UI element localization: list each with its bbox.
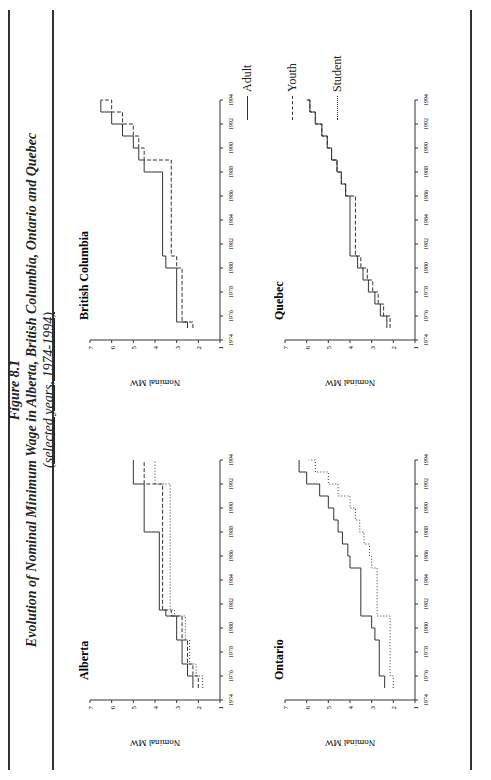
svg-text:1984: 1984 <box>423 214 429 226</box>
svg-text:7: 7 <box>87 346 95 350</box>
svg-text:1976: 1976 <box>423 310 429 322</box>
svg-text:4: 4 <box>347 346 355 350</box>
svg-text:1978: 1978 <box>228 646 234 658</box>
svg-text:1988: 1988 <box>423 166 429 178</box>
svg-text:1986: 1986 <box>228 550 234 562</box>
svg-text:2: 2 <box>195 706 203 710</box>
figure-label: Figure 8.1 <box>6 0 23 780</box>
svg-text:1990: 1990 <box>228 142 234 154</box>
svg-text:1974: 1974 <box>228 694 234 706</box>
svg-text:1980: 1980 <box>423 622 429 634</box>
dotted-line-icon <box>337 96 338 120</box>
svg-text:Nominal MW: Nominal MW <box>324 378 375 388</box>
svg-text:5: 5 <box>130 346 138 350</box>
svg-text:1980: 1980 <box>228 622 234 634</box>
svg-text:1986: 1986 <box>228 190 234 202</box>
panel-alberta: 1234567197419761978198019821984198619881… <box>70 390 230 760</box>
svg-text:1992: 1992 <box>228 478 234 490</box>
svg-text:1: 1 <box>412 346 420 350</box>
svg-text:7: 7 <box>87 706 95 710</box>
svg-text:4: 4 <box>152 346 160 350</box>
panel-british-columbia: 1234567197419761978198019821984198619881… <box>70 30 230 400</box>
svg-text:1990: 1990 <box>228 502 234 514</box>
svg-text:1986: 1986 <box>423 190 429 202</box>
panel-ontario: 1234567197419761978198019821984198619881… <box>265 390 425 760</box>
svg-text:1982: 1982 <box>423 238 429 250</box>
svg-text:3: 3 <box>174 706 182 710</box>
svg-text:1984: 1984 <box>228 214 234 226</box>
svg-text:Quebec: Quebec <box>272 281 286 320</box>
svg-text:6: 6 <box>304 706 312 710</box>
svg-text:Nominal MW: Nominal MW <box>129 378 180 388</box>
svg-text:4: 4 <box>152 706 160 710</box>
svg-text:1980: 1980 <box>228 262 234 274</box>
legend-item-youth: Youth <box>285 55 300 120</box>
svg-text:1976: 1976 <box>423 670 429 682</box>
svg-text:British Columbia: British Columbia <box>77 231 91 320</box>
svg-text:1994: 1994 <box>228 454 234 466</box>
legend: Adult Youth Student <box>240 55 375 120</box>
svg-text:1986: 1986 <box>423 550 429 562</box>
svg-text:1990: 1990 <box>423 142 429 154</box>
svg-text:Nominal MW: Nominal MW <box>129 738 180 748</box>
svg-text:1992: 1992 <box>423 118 429 130</box>
figure-page: Figure 8.1 Evolution of Nominal Minimum … <box>0 0 491 780</box>
svg-text:1982: 1982 <box>423 598 429 610</box>
legend-item-adult: Adult <box>240 55 255 120</box>
svg-text:1974: 1974 <box>423 334 429 346</box>
svg-text:3: 3 <box>174 346 182 350</box>
svg-text:Ontario: Ontario <box>272 639 286 680</box>
svg-text:1978: 1978 <box>423 286 429 298</box>
svg-text:1976: 1976 <box>228 310 234 322</box>
dashed-line-icon <box>292 96 293 120</box>
svg-text:1988: 1988 <box>228 526 234 538</box>
svg-text:1988: 1988 <box>228 166 234 178</box>
figure-title: Evolution of Nominal Minimum Wage in Alb… <box>23 0 40 780</box>
svg-text:2: 2 <box>195 346 203 350</box>
svg-text:1984: 1984 <box>423 574 429 586</box>
svg-text:1994: 1994 <box>423 454 429 466</box>
svg-text:3: 3 <box>369 346 377 350</box>
svg-text:1992: 1992 <box>228 118 234 130</box>
svg-text:2: 2 <box>390 346 398 350</box>
svg-text:1982: 1982 <box>228 598 234 610</box>
svg-text:1994: 1994 <box>423 94 429 106</box>
svg-text:1984: 1984 <box>228 574 234 586</box>
svg-text:1974: 1974 <box>228 334 234 346</box>
figure-title-block: Figure 8.1 Evolution of Nominal Minimum … <box>6 0 57 780</box>
svg-text:6: 6 <box>109 346 117 350</box>
svg-text:1992: 1992 <box>423 478 429 490</box>
svg-text:1988: 1988 <box>423 526 429 538</box>
svg-text:1980: 1980 <box>423 262 429 274</box>
svg-text:5: 5 <box>325 346 333 350</box>
svg-text:1: 1 <box>412 706 420 710</box>
svg-text:1978: 1978 <box>423 646 429 658</box>
svg-text:Nominal MW: Nominal MW <box>324 738 375 748</box>
svg-text:5: 5 <box>325 706 333 710</box>
svg-text:1976: 1976 <box>228 670 234 682</box>
bottom-rule <box>470 10 472 770</box>
svg-text:1974: 1974 <box>423 694 429 706</box>
svg-text:Alberta: Alberta <box>77 641 91 680</box>
svg-text:6: 6 <box>304 346 312 350</box>
legend-item-student: Student <box>330 55 345 120</box>
svg-text:6: 6 <box>109 706 117 710</box>
svg-text:1978: 1978 <box>228 286 234 298</box>
svg-text:1: 1 <box>217 346 225 350</box>
svg-text:3: 3 <box>369 706 377 710</box>
solid-line-icon <box>247 96 248 120</box>
svg-text:7: 7 <box>282 706 290 710</box>
figure-subtitle: (selected years, 1974-1994) <box>40 0 57 780</box>
svg-text:2: 2 <box>390 706 398 710</box>
svg-text:1982: 1982 <box>228 238 234 250</box>
svg-text:4: 4 <box>347 706 355 710</box>
svg-text:5: 5 <box>130 706 138 710</box>
svg-text:7: 7 <box>282 346 290 350</box>
svg-text:1994: 1994 <box>228 94 234 106</box>
svg-text:1990: 1990 <box>423 502 429 514</box>
svg-text:1: 1 <box>217 706 225 710</box>
